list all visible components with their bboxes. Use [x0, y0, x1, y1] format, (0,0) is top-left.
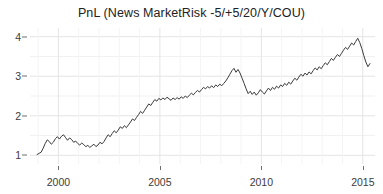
chart-title: PnL (News MarketRisk -5/+5/20/Y/COU) [0, 6, 383, 20]
y-axis-tick-label: 4 [15, 31, 21, 43]
x-axis-tick-label: 2010 [250, 176, 273, 188]
pnl-chart-figure: PnL (News MarketRisk -5/+5/20/Y/COU) 123… [0, 0, 383, 194]
y-axis-tick-mark [22, 155, 27, 156]
x-axis-tick-mark [261, 166, 262, 170]
y-axis-tick-mark [22, 115, 27, 116]
x-axis-tick-label: 2015 [351, 176, 374, 188]
x-axis-tick-label: 2000 [47, 176, 70, 188]
y-axis-tick-label: 3 [15, 70, 21, 82]
x-axis-tick-mark [363, 166, 364, 170]
x-axis: 2000200520102015 [30, 166, 375, 192]
y-axis-tick-label: 1 [15, 149, 21, 161]
x-axis-tick-mark [160, 166, 161, 170]
plot-area [30, 28, 375, 164]
x-axis-tick-label: 2005 [148, 176, 171, 188]
y-axis-tick-label: 2 [15, 110, 21, 122]
plot-svg [30, 28, 375, 164]
x-axis-tick-mark [58, 166, 59, 170]
y-axis-tick-labels: 1234 [0, 28, 21, 164]
y-axis-tick-mark [22, 36, 27, 37]
y-axis-tick-mark [22, 76, 27, 77]
horizontal-minor-gridlines [30, 56, 375, 135]
